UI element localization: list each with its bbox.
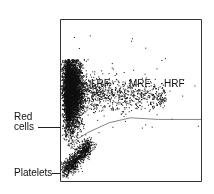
- region-label-mrf: MRF: [129, 78, 151, 89]
- scattergram-plot: [0, 0, 214, 194]
- red-cells-label-line2: cells: [14, 121, 34, 132]
- region-label-hrf: HRF: [164, 78, 185, 89]
- region-label-lrf: LRF: [91, 78, 110, 89]
- platelets-label: Platelets: [14, 167, 52, 178]
